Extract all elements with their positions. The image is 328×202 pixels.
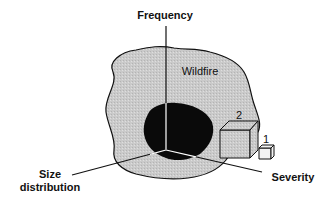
- distribution-label: distribution: [20, 181, 81, 193]
- wildfire-label: Wildfire: [182, 65, 219, 77]
- cube-2-label: 2: [236, 109, 242, 121]
- cube-1: [259, 145, 274, 159]
- size-label: Size: [39, 168, 61, 180]
- frequency-label: Frequency: [137, 9, 194, 21]
- cube-1-label: 1: [263, 133, 269, 145]
- core-region: [144, 103, 214, 160]
- severity-label: Severity: [272, 171, 316, 183]
- cube-2: [220, 121, 258, 158]
- diagram-canvas: Frequency Wildfire 2 1 Size distribution…: [0, 0, 328, 202]
